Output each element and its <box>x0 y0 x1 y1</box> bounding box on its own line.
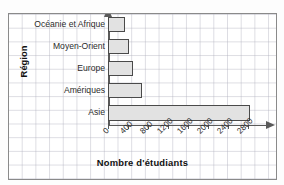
bar-ameriques <box>108 83 142 98</box>
y-tick-label-oceanie-et-afrique: Océanie et Afrique <box>34 20 105 29</box>
bar-oceanie-et-afrique <box>108 17 125 32</box>
x-axis-arrow-icon <box>266 121 275 129</box>
y-tick-label-moyen-orient: Moyen-Orient <box>53 42 105 51</box>
y-tick-label-asie: Asie <box>88 108 105 117</box>
bar-europe <box>108 61 133 76</box>
plot-area: Océanie et Afrique Moyen-Orient Europe A… <box>9 14 276 179</box>
chart-screenshot: Océanie et Afrique Moyen-Orient Europe A… <box>0 0 284 185</box>
x-tick-label-800: 800 <box>139 120 154 135</box>
x-axis-title: Nombre d'étudiants <box>9 157 276 168</box>
chart-frame: Océanie et Afrique Moyen-Orient Europe A… <box>8 13 277 180</box>
x-tick-label-400: 400 <box>119 120 134 135</box>
x-tick-0 <box>108 125 109 129</box>
y-tick-label-ameriques: Amériques <box>64 86 105 95</box>
y-tick-label-europe: Europe <box>77 64 105 73</box>
y-axis-title: Région <box>18 32 29 92</box>
x-tick-label-0: 0 <box>102 127 111 136</box>
bar-moyen-orient <box>108 39 129 54</box>
